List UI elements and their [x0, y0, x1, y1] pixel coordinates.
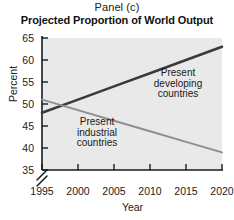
annotation-present-developing-countries: Present developing countries	[142, 68, 214, 100]
annotation-present-industrial-countries: Present industrial countries	[64, 117, 130, 149]
annotation-developing-line3: countries	[142, 89, 214, 100]
chart-figure: Panel (c) Projected Proportion of World …	[0, 0, 234, 220]
annotation-industrial-line1: Present	[64, 117, 130, 128]
plot-area	[0, 0, 234, 220]
annotation-developing-line1: Present	[142, 68, 214, 79]
y-axis-break-icon	[37, 170, 47, 186]
annotation-industrial-line3: countries	[64, 138, 130, 149]
